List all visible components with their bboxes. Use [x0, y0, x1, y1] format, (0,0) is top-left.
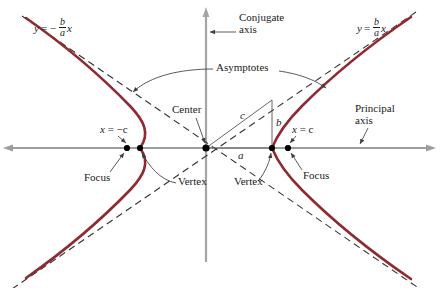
- conjugate-axis-arrow-top: [203, 7, 210, 17]
- asymptote-negative-slope: [22, 16, 420, 288]
- equation-right-denominator: a: [373, 27, 380, 38]
- equation-left-fraction: b a: [59, 17, 66, 38]
- equation-right-numerator: b: [373, 17, 380, 27]
- label-x-neg-c-rest: = −c: [108, 123, 128, 135]
- equation-right-asymptote: y = b a x: [357, 18, 386, 39]
- label-x-c-rest: = c: [300, 123, 314, 135]
- leader-x-equals-c: [290, 136, 296, 143]
- label-x-neg-c-variable: x: [100, 123, 105, 135]
- label-vertex-right: Vertex: [234, 176, 263, 188]
- equation-left-denominator: a: [59, 27, 66, 38]
- equation-right-variable: x: [381, 23, 386, 35]
- label-side-b: b: [276, 117, 282, 129]
- leader-asymptotes-right: [279, 71, 326, 88]
- equation-right-operator: =: [364, 23, 370, 35]
- leader-focus-right: [291, 153, 302, 170]
- label-focus-left: Focus: [84, 172, 110, 184]
- leader-asymptotes-left: [133, 69, 213, 92]
- label-principal-axis: Principal axis: [355, 103, 395, 127]
- label-side-a: a: [238, 150, 244, 162]
- leader-principal-axis: [360, 128, 368, 144]
- leader-focus-left: [110, 153, 124, 172]
- label-vertex-left: Vertex: [178, 176, 207, 188]
- equation-left-asymptote: y = − b a x: [34, 18, 72, 39]
- equation-left-variable: x: [67, 23, 72, 35]
- hyperbola-diagram-canvas: [0, 0, 440, 288]
- segment-c-line: [206, 100, 272, 148]
- label-asymptotes: Asymptotes: [216, 62, 269, 74]
- focus-left-point: [124, 145, 130, 151]
- label-focus-right: Focus: [303, 170, 329, 182]
- leader-vertex-left: [142, 153, 176, 183]
- label-conjugate-axis-line2: axis: [239, 24, 284, 36]
- label-x-equals-c: x = c: [292, 124, 313, 136]
- leader-center: [196, 118, 205, 143]
- principal-axis-arrow-left: [3, 145, 13, 152]
- label-center: Center: [172, 104, 201, 116]
- abc-triangle-group: [206, 100, 272, 148]
- equation-left-operator: = −: [41, 23, 56, 35]
- equation-left-numerator: b: [59, 17, 66, 27]
- vertex-right-point: [269, 145, 275, 151]
- label-x-equals-neg-c: x = −c: [100, 124, 128, 136]
- label-conjugate-axis: Conjugate axis: [239, 12, 284, 36]
- label-x-c-variable: x: [292, 123, 297, 135]
- label-principal-axis-line2: axis: [355, 115, 395, 127]
- vertex-left-point: [137, 145, 143, 151]
- focus-right-point: [285, 145, 291, 151]
- center-point: [202, 144, 209, 151]
- principal-axis-arrow-right: [426, 145, 436, 152]
- equation-right-fraction: b a: [373, 17, 380, 38]
- leader-x-equals-neg-c: [118, 136, 126, 143]
- label-side-c: c: [240, 110, 245, 122]
- equation-left-lhs: y: [34, 23, 39, 35]
- equation-right-lhs: y: [357, 23, 362, 35]
- hyperbola-figure: y = − b a x y = b a x Conjugate axis Asy…: [0, 0, 440, 288]
